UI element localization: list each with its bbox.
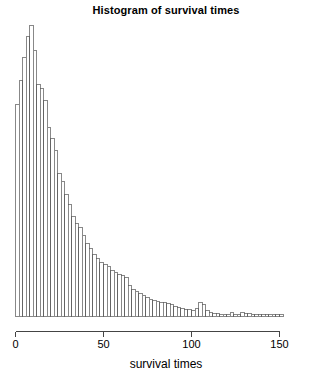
histogram-bars [16, 25, 284, 317]
histogram-bar [248, 314, 252, 317]
histogram-bar [16, 104, 20, 316]
histogram-bar [142, 295, 146, 316]
histogram-bar [47, 127, 51, 316]
histogram-bar [220, 314, 224, 316]
histogram-bar [265, 315, 269, 317]
histogram-bar [181, 309, 185, 317]
histogram-bar [30, 25, 34, 317]
histogram-bar [135, 291, 139, 316]
histogram-bar [65, 195, 69, 317]
histogram-bar [227, 314, 231, 316]
histogram-bar [51, 139, 55, 317]
histogram-bar [93, 255, 97, 317]
histogram-bar [167, 304, 171, 317]
histogram-bar [216, 314, 220, 317]
x-axis [16, 332, 280, 337]
histogram-bar [199, 303, 203, 317]
histogram-bar [251, 314, 255, 316]
histogram-bar [40, 89, 44, 317]
histogram-bar [23, 58, 27, 317]
histogram-bar [86, 243, 90, 316]
histogram-bar [54, 150, 58, 316]
histogram-bar [128, 286, 132, 317]
histogram-bar [177, 308, 181, 317]
histogram-bar [149, 299, 153, 316]
histogram-bar [68, 205, 72, 317]
histogram-figure: Histogram of survival times 050100150 su… [0, 0, 332, 381]
histogram-bar [75, 224, 79, 317]
histogram-bar [160, 302, 164, 316]
histogram-bar [262, 315, 266, 317]
histogram-bar [44, 100, 48, 316]
histogram-bar [170, 305, 174, 317]
histogram-bar [132, 289, 136, 316]
histogram-bar [195, 309, 199, 317]
histogram-bar [241, 313, 245, 317]
histogram-bar [258, 315, 262, 317]
histogram-bar [230, 313, 234, 317]
histogram-bar [104, 264, 108, 316]
histogram-bar [276, 315, 280, 317]
histogram-bar [223, 314, 227, 316]
histogram-bar [269, 315, 273, 317]
histogram-bar [111, 270, 115, 316]
histogram-bar [61, 181, 65, 316]
histogram-bar [202, 305, 206, 317]
histogram-bar [153, 300, 157, 316]
histogram-bar [89, 249, 93, 317]
histogram-bar [188, 310, 192, 317]
histogram-bar [255, 315, 259, 317]
x-axis-tick-label: 50 [97, 338, 109, 350]
histogram-bar [146, 297, 150, 316]
histogram-bar [237, 314, 241, 316]
histogram-bar [79, 228, 83, 317]
histogram-bar [139, 293, 143, 316]
histogram-bar [19, 81, 23, 317]
histogram-bar [121, 276, 125, 317]
histogram-bar [107, 266, 111, 316]
x-axis-tick-label: 0 [12, 338, 18, 350]
histogram-bar [96, 259, 100, 317]
histogram-bar [118, 274, 122, 316]
histogram-bar [37, 85, 41, 317]
histogram-bar [192, 311, 196, 317]
histogram-bar [26, 37, 30, 317]
histogram-bar [184, 310, 188, 317]
histogram-bar [156, 301, 160, 316]
histogram-bar [163, 303, 167, 317]
histogram-bar [209, 313, 213, 317]
plot-area [0, 0, 332, 381]
histogram-bar [244, 314, 248, 317]
histogram-bar [100, 262, 104, 316]
histogram-bar [82, 235, 86, 316]
histogram-bar [234, 314, 238, 316]
histogram-bar [174, 307, 178, 317]
histogram-bar [125, 278, 129, 317]
histogram-bar [58, 174, 62, 317]
histogram-bar [114, 272, 118, 316]
x-axis-tick-label: 100 [182, 338, 200, 350]
histogram-bar [33, 50, 37, 316]
x-axis-tick-label: 150 [270, 338, 288, 350]
histogram-bar [280, 314, 284, 316]
histogram-bar [206, 311, 210, 317]
histogram-bar [72, 216, 76, 316]
histogram-bar [272, 314, 276, 316]
histogram-bar [213, 314, 217, 317]
x-axis-title: survival times [0, 357, 332, 371]
